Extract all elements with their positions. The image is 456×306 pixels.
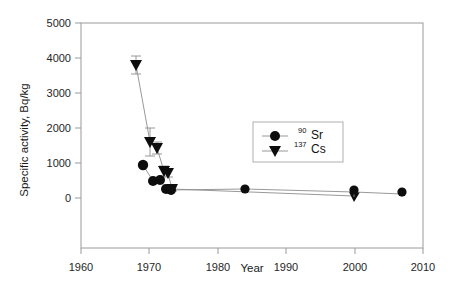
x-tick-label: 2000	[343, 261, 367, 273]
x-tick-label: 2010	[411, 261, 435, 273]
x-tick-label: 1990	[274, 261, 298, 273]
y-axis-tick-labels: 5000 4000 3000 2000 1000 0	[47, 17, 71, 204]
legend-label-cs: Cs	[311, 142, 326, 156]
y-tick-label: 3000	[47, 87, 71, 99]
y-axis-title: Specific activity, Bq/kg	[18, 83, 30, 197]
y-axis-ticks	[75, 23, 81, 198]
series-90sr-line	[143, 165, 402, 194]
chart-figure: 5000 4000 3000 2000 1000 0 1960 1970 198…	[0, 0, 456, 306]
x-axis-ticks	[81, 248, 423, 254]
y-tick-label: 0	[65, 192, 71, 204]
chart-legend: 90 Sr 137 Cs	[253, 122, 343, 162]
x-tick-label: 1960	[69, 261, 93, 273]
y-tick-label: 1000	[47, 157, 71, 169]
series-90sr	[138, 160, 407, 197]
x-axis-title: Year	[240, 262, 263, 274]
legend-sup-137: 137	[294, 140, 307, 149]
y-tick-label: 5000	[47, 17, 71, 29]
series-90sr-markers	[138, 160, 407, 197]
x-tick-label: 1980	[206, 261, 230, 273]
circle-marker-icon	[270, 131, 280, 141]
legend-sup-90: 90	[298, 126, 306, 135]
y-tick-label: 4000	[47, 52, 71, 64]
chart-svg: 5000 4000 3000 2000 1000 0 1960 1970 198…	[0, 0, 456, 306]
plot-frame	[81, 23, 423, 248]
y-tick-label: 2000	[47, 122, 71, 134]
x-tick-label: 1970	[137, 261, 161, 273]
legend-label-sr: Sr	[311, 128, 323, 142]
